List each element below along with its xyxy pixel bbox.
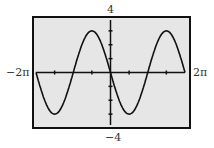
graph-window [0, 0, 214, 148]
y-max-label: 4 [107, 4, 114, 15]
y-min-label: −4 [105, 132, 121, 143]
x-min-label: −2π [6, 67, 29, 78]
x-max-label: 2π [193, 67, 207, 78]
